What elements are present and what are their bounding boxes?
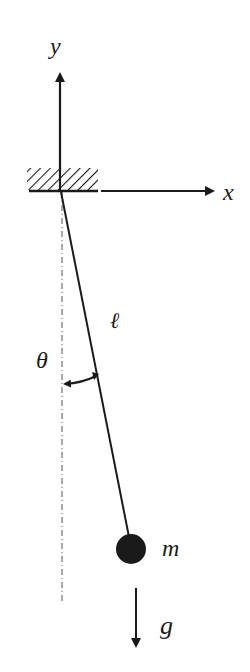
pendulum-diagram: y x ℓ θ m g bbox=[0, 0, 250, 672]
pendulum-rod bbox=[61, 192, 129, 537]
angle-arc bbox=[65, 376, 96, 384]
angle-label: θ bbox=[36, 347, 48, 373]
pendulum-figure: y x ℓ θ m g bbox=[0, 0, 250, 672]
gravity-label: g bbox=[160, 611, 173, 640]
mass-label: m bbox=[162, 535, 179, 561]
length-label: ℓ bbox=[110, 308, 120, 333]
pendulum-bob bbox=[116, 534, 146, 564]
x-axis-label: x bbox=[222, 179, 234, 205]
ceiling-support bbox=[27, 168, 98, 191]
y-axis-label: y bbox=[48, 33, 61, 59]
